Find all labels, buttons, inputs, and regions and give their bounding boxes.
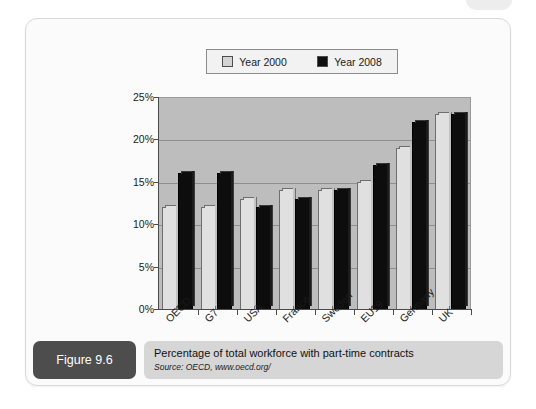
x-axis-tick-mark <box>354 310 355 315</box>
figure-caption-body: Percentage of total workforce with part-… <box>144 341 503 379</box>
page-edge-artifact <box>466 0 512 10</box>
bar-group <box>240 97 271 309</box>
legend-label-year-2000: Year 2000 <box>239 56 287 68</box>
bar <box>357 182 372 309</box>
legend-label-year-2008: Year 2008 <box>334 56 382 68</box>
bar <box>373 165 388 309</box>
figure-caption-row: Figure 9.6Percentage of total workforce … <box>33 341 503 379</box>
y-axis-tick-label: 5% <box>122 261 154 273</box>
x-axis-tick-mark <box>432 310 433 315</box>
y-axis-tick-label: 20% <box>122 133 154 145</box>
x-axis-tick-mark <box>276 310 277 315</box>
x-axis-tick-mark <box>393 310 394 315</box>
bar-group <box>201 97 232 309</box>
y-axis-tick-mark <box>154 182 159 183</box>
legend-swatch-year-2000 <box>222 56 233 67</box>
x-axis-tick-mark <box>198 310 199 315</box>
plot-area <box>159 97 471 309</box>
legend-entry-year-2000: Year 2000 <box>222 56 287 68</box>
figure-caption-source: Source: OECD, www.oecd.org/ <box>154 362 493 373</box>
bar <box>256 207 271 309</box>
bar-group <box>357 97 388 309</box>
bar <box>412 122 427 309</box>
y-axis-tick-mark <box>154 224 159 225</box>
y-axis-tick-label: 25% <box>122 91 154 103</box>
y-axis-tick-mark <box>154 97 159 98</box>
y-axis-tick-mark <box>154 139 159 140</box>
bar-group <box>318 97 349 309</box>
x-axis-tick-mark <box>471 310 472 315</box>
bar <box>217 173 232 309</box>
bar <box>318 190 333 309</box>
bar <box>396 148 411 309</box>
legend-entry-year-2008: Year 2008 <box>317 56 382 68</box>
bar-group <box>396 97 427 309</box>
y-axis-tick-label: 10% <box>122 218 154 230</box>
bar-group <box>435 97 466 309</box>
figure-number-tag: Figure 9.6 <box>33 341 136 379</box>
y-axis-tick-mark <box>154 267 159 268</box>
bar-group <box>162 97 193 309</box>
bar <box>240 199 255 309</box>
bar-group <box>279 97 310 309</box>
y-axis-tick-label: 0% <box>122 303 154 315</box>
figure-card: Year 2000 Year 2008 0%5%10%15%20%25% OEC… <box>25 18 511 386</box>
bar <box>279 190 294 309</box>
legend-swatch-year-2008 <box>317 56 328 67</box>
x-axis-tick-mark <box>315 310 316 315</box>
y-axis-tick-mark <box>154 309 159 310</box>
bar <box>451 114 466 309</box>
y-axis-line <box>158 97 159 310</box>
bar <box>435 114 450 309</box>
bar <box>178 173 193 309</box>
figure-caption-title: Percentage of total workforce with part-… <box>154 346 493 361</box>
x-axis-tick-mark <box>237 310 238 315</box>
chart-legend: Year 2000 Year 2008 <box>206 49 398 74</box>
bar <box>201 207 216 309</box>
bar <box>162 207 177 309</box>
y-axis-tick-label: 15% <box>122 176 154 188</box>
